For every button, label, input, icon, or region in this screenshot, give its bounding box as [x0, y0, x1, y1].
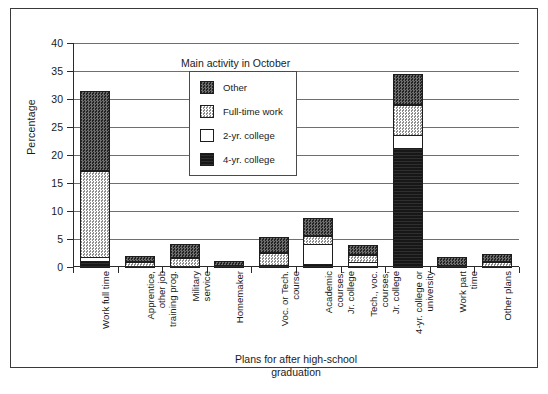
y-axis-tick	[67, 43, 73, 44]
legend-swatch-other	[200, 81, 214, 94]
x-axis-tick-label: Work part time	[457, 271, 479, 353]
x-axis-title-line: graduation	[73, 366, 519, 379]
y-axis-tick-label: 25	[51, 121, 63, 133]
figure-container: Percentage 0510152025303540 Work full ti…	[0, 0, 548, 394]
bar-segment[interactable]	[482, 254, 512, 262]
bar-stack[interactable]	[259, 237, 289, 267]
bar-segment[interactable]	[393, 148, 423, 268]
legend-label: Other	[223, 82, 247, 93]
gridline	[73, 211, 519, 212]
bar-segment[interactable]	[170, 244, 200, 259]
y-axis-tick-label: 15	[51, 177, 63, 189]
legend-item-twoyr[interactable]: 2-yr. college	[200, 129, 288, 142]
legend-label: 2-yr. college	[223, 130, 275, 141]
x-axis-tick-label: Homemaker	[234, 271, 245, 353]
bar-segment[interactable]	[393, 74, 423, 105]
y-axis-tick-label: 5	[57, 233, 63, 245]
x-axis-tick-label: Tech., voc. courses, Jr. college	[368, 271, 401, 353]
y-axis-tick-label: 40	[51, 37, 63, 49]
bar-stack[interactable]	[348, 245, 378, 267]
legend-swatch-twoyr	[200, 129, 214, 142]
chart-frame: Percentage 0510152025303540 Work full ti…	[10, 8, 538, 368]
gridline	[73, 183, 519, 184]
y-axis-tick	[67, 155, 73, 156]
x-axis-title-line: Plans for after high-school	[73, 353, 519, 366]
legend-swatch-fulltime	[200, 105, 214, 118]
x-axis-tick-label: Military service	[190, 271, 212, 353]
x-axis-tick-label: Other plans	[502, 271, 513, 353]
y-axis-tick-label: 35	[51, 65, 63, 77]
x-axis-tick-label: Academic courses, Jr. college	[323, 271, 356, 353]
x-axis-tick-labels: Work full timeApprentice, other job trai…	[73, 271, 519, 353]
bar-stack[interactable]	[80, 91, 110, 267]
y-axis-tick-label: 10	[51, 205, 63, 217]
legend-item-other[interactable]: Other	[200, 81, 288, 94]
x-axis-tick-label: Voc. or Tech. course	[279, 271, 301, 353]
bar-segment[interactable]	[393, 135, 423, 149]
bar-stack[interactable]	[393, 74, 423, 267]
legend-label: Full-time work	[223, 106, 283, 117]
legend-item-fulltime[interactable]: Full-time work	[200, 105, 288, 118]
y-axis-tick-label: 20	[51, 149, 63, 161]
bar-segment[interactable]	[80, 91, 110, 172]
bar-stack[interactable]	[170, 244, 200, 267]
legend-title: Main activity in October	[181, 57, 290, 69]
y-axis-tick	[67, 71, 73, 72]
bar-segment[interactable]	[80, 171, 110, 257]
legend-box: OtherFull-time work2-yr. college4-yr. co…	[189, 71, 297, 176]
y-axis-tick	[67, 211, 73, 212]
x-axis-tick-label: Apprentice, other job training prog.	[145, 271, 178, 353]
bar-segment[interactable]	[348, 245, 378, 255]
legend-label: 4-yr. college	[223, 154, 275, 165]
y-axis-title: Percentage	[25, 99, 37, 155]
bar-segment[interactable]	[303, 218, 333, 236]
y-axis-tick	[67, 99, 73, 100]
x-axis-tick	[519, 267, 520, 273]
gridline	[73, 43, 519, 44]
bar-segment[interactable]	[437, 257, 467, 266]
x-axis-tick-label: 4-yr. college or university	[413, 271, 435, 353]
legend-swatch-fouryr	[200, 153, 214, 166]
bar-stack[interactable]	[303, 218, 333, 267]
y-axis-line	[73, 43, 74, 267]
bar-segment[interactable]	[393, 105, 423, 136]
y-axis-tick	[67, 183, 73, 184]
bar-segment[interactable]	[259, 237, 289, 253]
x-axis-tick-label: Work full time	[100, 271, 111, 353]
y-axis-tick	[67, 239, 73, 240]
y-axis-tick-label: 30	[51, 93, 63, 105]
legend-item-fouryr[interactable]: 4-yr. college	[200, 153, 288, 166]
x-axis-title: Plans for after high-schoolgraduation	[73, 353, 519, 379]
gridline	[73, 239, 519, 240]
y-axis-tick-label: 0	[57, 261, 63, 273]
bar-segment[interactable]	[303, 244, 333, 265]
y-axis-tick	[67, 127, 73, 128]
